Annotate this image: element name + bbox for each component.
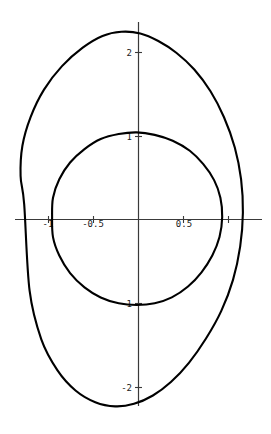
plot-background	[0, 0, 271, 434]
y-tick-label-neg2: -2	[121, 383, 132, 393]
y-tick-label-pos2: 2	[127, 48, 132, 58]
plot-canvas: -1 -0.5 0.5 2 1 -1 -2	[0, 0, 271, 434]
x-tick-label-neg05: -0.5	[82, 219, 104, 229]
plot-figure: -1 -0.5 0.5 2 1 -1 -2	[0, 0, 271, 434]
x-tick-label-pos05: 0.5	[176, 219, 192, 229]
